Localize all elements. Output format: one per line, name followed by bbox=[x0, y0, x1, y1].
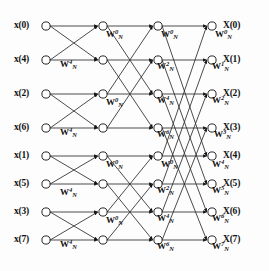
twiddle-label-stage1-3: W4N bbox=[60, 126, 77, 138]
twiddle-subscript: N bbox=[169, 245, 174, 252]
twiddle-label-stage2-4: W0N bbox=[161, 158, 178, 170]
input-node-1 bbox=[42, 152, 50, 160]
twiddle-label-stage2-7: W6N bbox=[157, 240, 174, 252]
input-node-3 bbox=[42, 208, 50, 216]
twiddle-subscript: N bbox=[72, 191, 77, 198]
stage1-node-3 bbox=[99, 124, 107, 132]
twiddle-label-stage2-2: W4N bbox=[157, 94, 174, 106]
twiddle-subscript: N bbox=[224, 99, 229, 106]
twiddle-subscript: N bbox=[72, 131, 77, 138]
twiddle-label-stage3-6: W6N bbox=[212, 212, 229, 224]
twiddle-label-stage2-5: W2N bbox=[157, 184, 174, 196]
stage1-node-1 bbox=[99, 56, 107, 64]
twiddle-subscript: N bbox=[169, 133, 174, 140]
stage1-node-7 bbox=[99, 236, 107, 244]
twiddle-label-stage3-7: W7N bbox=[212, 240, 229, 252]
input-label-x0: x(0) bbox=[14, 20, 29, 30]
input-node-4 bbox=[42, 56, 50, 64]
twiddle-subscript: N bbox=[226, 133, 231, 140]
twiddle-subscript: N bbox=[169, 217, 174, 224]
input-node-2 bbox=[42, 90, 50, 98]
twiddle-subscript: N bbox=[169, 65, 174, 72]
twiddle-label-stage2-1: W2N bbox=[157, 60, 174, 72]
twiddle-label-stage3-4: W4N bbox=[212, 158, 229, 170]
twiddle-subscript: N bbox=[224, 217, 229, 224]
twiddle-subscript: N bbox=[169, 99, 174, 106]
twiddle-label-stage1-0: W0N bbox=[106, 28, 123, 40]
input-label-x3: x(3) bbox=[14, 206, 29, 216]
twiddle-subscript: N bbox=[118, 33, 123, 40]
input-label-x6: x(6) bbox=[14, 122, 29, 132]
input-label-x4: x(4) bbox=[14, 54, 29, 64]
fft-butterfly-figure: x(0)x(4)x(2)x(6)x(1)x(5)x(3)x(7)X(0)X(1)… bbox=[0, 0, 269, 271]
input-node-7 bbox=[42, 236, 50, 244]
twiddle-subscript: N bbox=[224, 65, 229, 72]
twiddle-label-stage1-4: W0N bbox=[106, 158, 123, 170]
twiddle-subscript: N bbox=[118, 101, 123, 108]
twiddle-label-stage3-3: W3N bbox=[214, 128, 231, 140]
twiddle-subscript: N bbox=[173, 33, 178, 40]
twiddle-subscript: N bbox=[224, 245, 229, 252]
input-label-x7: x(7) bbox=[14, 234, 29, 244]
twiddle-label-stage1-5: W4N bbox=[60, 186, 77, 198]
twiddle-subscript: N bbox=[72, 243, 77, 250]
input-node-5 bbox=[42, 180, 50, 188]
twiddle-label-stage2-0: W0N bbox=[161, 28, 178, 40]
twiddle-subscript: N bbox=[72, 63, 77, 70]
twiddle-label-stage1-1: W4N bbox=[60, 58, 77, 70]
twiddle-subscript: N bbox=[173, 163, 178, 170]
twiddle-label-stage3-2: W2N bbox=[212, 94, 229, 106]
input-label-x2: x(2) bbox=[14, 88, 29, 98]
twiddle-subscript: N bbox=[224, 189, 229, 196]
input-label-x1: x(1) bbox=[14, 150, 29, 160]
twiddle-label-stage3-5: W5N bbox=[212, 184, 229, 196]
twiddle-label-stage3-0: W0N bbox=[215, 28, 232, 40]
stage1-node-5 bbox=[99, 180, 107, 188]
twiddle-subscript: N bbox=[118, 219, 123, 226]
twiddle-label-stage1-6: W0N bbox=[106, 214, 123, 226]
twiddle-label-stage3-1: W1N bbox=[212, 60, 229, 72]
twiddle-subscript: N bbox=[227, 33, 232, 40]
twiddle-label-stage1-7: W4N bbox=[60, 238, 77, 250]
twiddle-label-stage2-6: W4N bbox=[157, 212, 174, 224]
twiddle-label-stage1-2: W0N bbox=[106, 96, 123, 108]
twiddle-subscript: N bbox=[169, 189, 174, 196]
input-node-6 bbox=[42, 124, 50, 132]
input-label-x5: x(5) bbox=[14, 178, 29, 188]
twiddle-label-stage2-3: W6N bbox=[157, 128, 174, 140]
twiddle-subscript: N bbox=[118, 163, 123, 170]
twiddle-subscript: N bbox=[224, 163, 229, 170]
input-node-0 bbox=[42, 22, 50, 30]
